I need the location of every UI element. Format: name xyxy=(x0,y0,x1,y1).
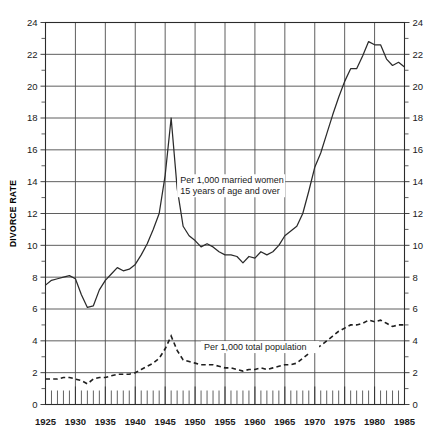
y-axis-right-tick-24: 24 xyxy=(413,17,424,28)
y-axis-right-tick-12: 12 xyxy=(413,208,424,219)
y-axis-left-tick-8: 8 xyxy=(32,272,37,283)
chart-background xyxy=(0,0,446,446)
annotation-total-population-label: Per 1,000 total population xyxy=(204,342,307,352)
y-axis-right-tick-10: 10 xyxy=(413,240,424,251)
y-axis-right-tick-14: 14 xyxy=(413,176,424,187)
y-axis-left-tick-2: 2 xyxy=(32,367,37,378)
x-axis-tick-1960: 1960 xyxy=(244,416,265,427)
y-axis-right-tick-18: 18 xyxy=(413,112,424,123)
y-axis-right-tick-0: 0 xyxy=(413,399,418,410)
x-axis-tick-1955: 1955 xyxy=(214,416,236,427)
x-axis-tick-1940: 1940 xyxy=(125,416,146,427)
annotation-married-women: Per 1,000 married women 15 years of age … xyxy=(177,174,285,197)
annotation-total-population: Per 1,000 total population xyxy=(201,341,319,353)
y-axis-left-tick-14: 14 xyxy=(27,176,38,187)
y-axis-left-tick-18: 18 xyxy=(27,112,38,123)
annotation-married-women-line2: 15 years of age and over xyxy=(180,186,280,196)
y-axis-left-tick-10: 10 xyxy=(27,240,38,251)
x-axis-tick-1950: 1950 xyxy=(185,416,206,427)
y-axis-right-tick-2: 2 xyxy=(413,367,418,378)
y-axis-right-tick-20: 20 xyxy=(413,81,424,92)
chart-page: 024681012141618202224 024681012141618202… xyxy=(0,0,446,446)
x-axis-tick-1985: 1985 xyxy=(394,416,416,427)
divorce-rate-chart: 024681012141618202224 024681012141618202… xyxy=(0,0,446,446)
y-axis-title: DIVORCE RATE xyxy=(8,180,18,247)
y-axis-left-tick-0: 0 xyxy=(32,399,37,410)
x-axis-tick-1965: 1965 xyxy=(274,416,296,427)
x-axis-tick-1930: 1930 xyxy=(65,416,86,427)
annotation-married-women-line1: Per 1,000 married women xyxy=(180,175,284,185)
y-axis-left-tick-22: 22 xyxy=(27,49,38,60)
y-axis-right-tick-8: 8 xyxy=(413,272,418,283)
x-axis-tick-1925: 1925 xyxy=(35,416,57,427)
y-axis-left-tick-6: 6 xyxy=(32,303,37,314)
y-axis-left-tick-12: 12 xyxy=(27,208,38,219)
x-axis-tick-1980: 1980 xyxy=(364,416,385,427)
y-axis-right-tick-4: 4 xyxy=(413,335,418,346)
y-axis-right-tick-22: 22 xyxy=(413,49,424,60)
y-axis-left-tick-16: 16 xyxy=(27,144,38,155)
x-axis-tick-1970: 1970 xyxy=(304,416,325,427)
x-axis-tick-1945: 1945 xyxy=(155,416,177,427)
x-axis-tick-1935: 1935 xyxy=(95,416,117,427)
y-axis-left-tick-20: 20 xyxy=(27,81,38,92)
y-axis-right-tick-16: 16 xyxy=(413,144,424,155)
y-axis-left-tick-24: 24 xyxy=(27,17,38,28)
x-axis-tick-1975: 1975 xyxy=(334,416,356,427)
y-axis-right-tick-6: 6 xyxy=(413,303,418,314)
y-axis-left-tick-4: 4 xyxy=(32,335,37,346)
